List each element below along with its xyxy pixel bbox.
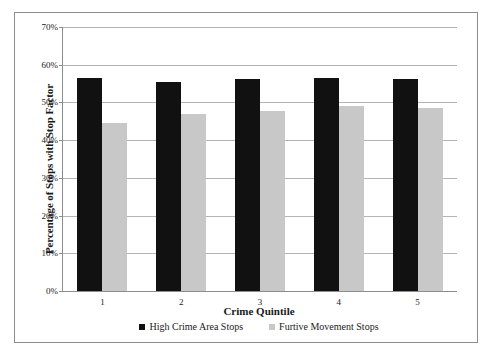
y-axis-tick-label: 40% [24, 135, 58, 145]
bar-group: 4 [314, 27, 364, 291]
y-axis-tick-label: 50% [24, 97, 58, 107]
bar-furtive-movement-stops[interactable] [418, 108, 443, 291]
y-axis-tick-mark [59, 65, 63, 66]
y-axis-tick-label: 60% [24, 60, 58, 70]
bar-furtive-movement-stops[interactable] [339, 106, 364, 291]
bar-high-crime-area-stops[interactable] [235, 79, 260, 291]
y-axis-tick-mark [59, 27, 63, 28]
y-axis-tick-mark [59, 102, 63, 103]
bar-group: 2 [156, 27, 206, 291]
plot-area: 0%10%20%30%40%50%60%70%12345 [62, 27, 457, 292]
chart-frame: Percentage of Stops with Stop Factor 0%1… [14, 12, 478, 343]
bar-group: 3 [235, 27, 285, 291]
y-axis-tick-label: 70% [24, 22, 58, 32]
bar-group: 1 [77, 27, 127, 291]
bar-high-crime-area-stops[interactable] [393, 79, 418, 291]
y-axis-tick-mark [59, 140, 63, 141]
bar-furtive-movement-stops[interactable] [181, 114, 206, 291]
y-axis-tick-mark [59, 253, 63, 254]
bar-furtive-movement-stops[interactable] [102, 123, 127, 291]
y-axis-tick-mark [59, 178, 63, 179]
bar-high-crime-area-stops[interactable] [156, 82, 181, 291]
legend-swatch-icon [139, 324, 145, 330]
y-axis-tick-label: 30% [24, 173, 58, 183]
legend-entry[interactable]: High Crime Area Stops [139, 321, 243, 332]
bar-high-crime-area-stops[interactable] [314, 78, 339, 291]
bar-group: 5 [393, 27, 443, 291]
y-axis-tick-label: 20% [24, 211, 58, 221]
y-axis-tick-mark [59, 216, 63, 217]
y-axis-tick-label: 10% [24, 248, 58, 258]
y-axis-tick-mark [59, 291, 63, 292]
legend-entry[interactable]: Furtive Movement Stops [269, 321, 378, 332]
bar-furtive-movement-stops[interactable] [260, 111, 285, 291]
bar-high-crime-area-stops[interactable] [77, 78, 102, 291]
y-axis-tick-label: 0% [24, 286, 58, 296]
legend-swatch-icon [269, 324, 275, 330]
chart-legend: High Crime Area StopsFurtive Movement St… [62, 321, 456, 332]
x-axis-title: Crime Quintile [62, 305, 456, 317]
legend-label: High Crime Area Stops [149, 321, 243, 332]
legend-label: Furtive Movement Stops [279, 321, 378, 332]
